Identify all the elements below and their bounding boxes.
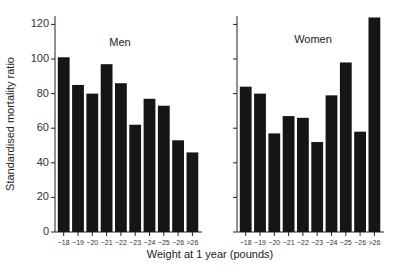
x-tick-label: −19 (72, 239, 84, 246)
x-axis-title: Weight at 1 year (pounds) (147, 248, 273, 260)
y-axis-title-group: Standardised mortality ratio (4, 57, 16, 191)
x-tick-label: −19 (254, 239, 266, 246)
x-tick-label: −18 (58, 239, 70, 246)
x-tick-label: −20 (86, 239, 98, 246)
x-tick-label: −22 (115, 239, 127, 246)
x-tick-label: −24 (326, 239, 338, 246)
y-tick-label: 40 (37, 156, 49, 168)
panel-men: 020406080100120−18−19−20−21−22−23−24−25−… (31, 16, 202, 246)
x-tick-label: −26 (354, 239, 366, 246)
x-tick-label: −26 (172, 239, 184, 246)
bar-men-2 (72, 85, 84, 232)
bar-women-9 (354, 132, 366, 232)
bar-women-5 (297, 118, 309, 232)
y-tick-label: 60 (37, 121, 49, 133)
bar-men-9 (172, 140, 184, 232)
x-tick-label: −20 (268, 239, 280, 246)
y-tick-label: 20 (37, 190, 49, 202)
bar-men-1 (58, 57, 70, 232)
x-tick-label: −21 (283, 239, 295, 246)
bar-women-8 (340, 62, 352, 232)
bar-women-7 (326, 95, 338, 232)
x-tick-label: −23 (311, 239, 323, 246)
x-tick-label: −25 (340, 239, 352, 246)
bar-men-5 (115, 83, 127, 232)
panel-title-men: Men (109, 36, 130, 48)
y-tick-label: 0 (43, 225, 49, 237)
x-tick-label: −25 (158, 239, 170, 246)
bar-women-4 (283, 116, 295, 232)
x-tick-label: −21 (101, 239, 113, 246)
x-tick-label: −24 (144, 239, 156, 246)
bar-men-3 (86, 94, 98, 232)
y-tick-label: 120 (31, 17, 49, 29)
mortality-by-weight-chart: Standardised mortality ratio Weight at 1… (0, 0, 399, 272)
bar-women-10 (369, 17, 381, 232)
x-tick-label: −18 (240, 239, 252, 246)
bar-women-3 (268, 133, 280, 232)
bar-men-7 (144, 99, 156, 232)
panel-title-women: Women (294, 33, 332, 45)
bar-men-10 (187, 152, 199, 232)
bar-men-6 (129, 125, 141, 232)
x-tick-label: −23 (129, 239, 141, 246)
x-tick-label: >26 (186, 239, 198, 246)
x-tick-label: −22 (297, 239, 309, 246)
x-tick-label: >26 (368, 239, 380, 246)
y-axis-title: Standardised mortality ratio (4, 57, 16, 191)
bar-women-2 (254, 94, 266, 232)
bar-women-1 (240, 87, 252, 232)
y-tick-label: 100 (31, 52, 49, 64)
panel-women: −18−19−20−21−22−23−24−25−26>26Women (233, 16, 384, 246)
bar-men-4 (101, 64, 113, 232)
y-tick-label: 80 (37, 87, 49, 99)
bar-men-8 (158, 106, 170, 232)
bar-women-6 (311, 142, 323, 232)
